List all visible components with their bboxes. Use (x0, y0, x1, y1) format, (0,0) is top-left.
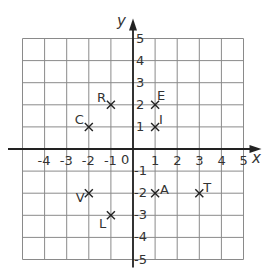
x-tick-label: 3 (195, 154, 203, 167)
y-tick-label: -4 (134, 230, 147, 243)
y-tick-label: -2 (134, 186, 147, 199)
y-tick-label: 5 (136, 32, 144, 45)
origin-label: 0 (121, 153, 129, 166)
point-label-e: E (157, 89, 165, 102)
y-tick-label: -3 (134, 208, 147, 221)
y-tick-label: 1 (136, 120, 144, 133)
y-tick-label: 3 (136, 76, 144, 89)
x-tick-label: -1 (104, 154, 117, 167)
x-tick-label: -4 (38, 154, 51, 167)
x-tick-label: 1 (151, 154, 159, 167)
point-label-l: L (99, 217, 106, 230)
point-label-v: V (76, 191, 85, 204)
point-label-i: I (159, 113, 163, 126)
y-axis-label: y (117, 14, 126, 29)
y-tick-label: 4 (136, 54, 144, 67)
y-axis-arrow-icon (129, 19, 137, 31)
y-tick-label: -1 (134, 164, 147, 177)
point-label-r: R (97, 91, 106, 104)
point-label-t: T (203, 181, 211, 194)
point-markers (85, 101, 204, 220)
x-tick-label: -2 (82, 154, 95, 167)
point-label-a: A (160, 183, 169, 196)
x-tick-label: -3 (60, 154, 73, 167)
y-tick-label: 2 (136, 98, 144, 111)
x-tick-label: 4 (217, 154, 225, 167)
y-tick-label: -5 (134, 253, 147, 266)
x-tick-label: 2 (173, 154, 181, 167)
x-axis-label: x (252, 151, 261, 166)
point-label-c: C (75, 113, 84, 126)
x-tick-label: 5 (240, 154, 248, 167)
